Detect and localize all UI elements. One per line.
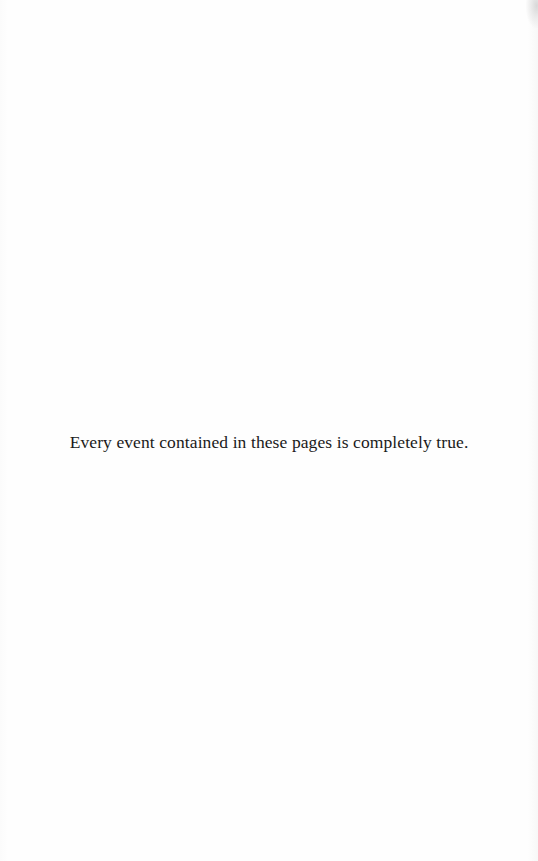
book-page: Every event contained in these pages is …	[0, 0, 538, 861]
epigraph-text: Every event contained in these pages is …	[0, 432, 538, 453]
scan-corner-mark	[526, 0, 538, 28]
